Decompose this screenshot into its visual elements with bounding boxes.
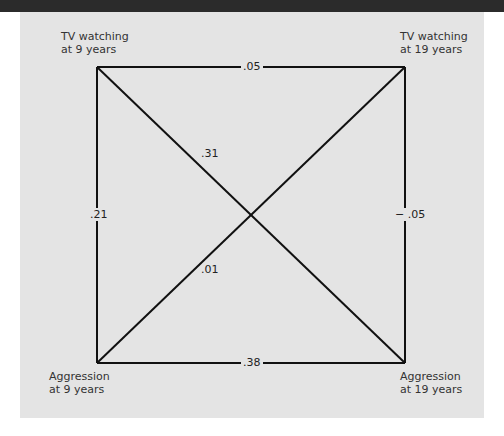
node-ag-19-line2: at 19 years bbox=[400, 383, 462, 396]
edge-label-tv19-ag19: − .05 bbox=[393, 208, 427, 221]
edge-label-ag9-tv19: .01 bbox=[199, 263, 221, 276]
node-tv-9-line2: at 9 years bbox=[61, 43, 129, 56]
node-tv-9: TV watching at 9 years bbox=[61, 30, 129, 56]
edge-label-ag9-ag19: .38 bbox=[241, 356, 263, 369]
edge-label-tv9-tv19: .05 bbox=[241, 60, 263, 73]
node-tv-19-line2: at 19 years bbox=[400, 43, 468, 56]
node-ag-9-line2: at 9 years bbox=[49, 383, 110, 396]
node-tv-19: TV watching at 19 years bbox=[400, 30, 468, 56]
edge-label-tv9-ag9: .21 bbox=[88, 208, 110, 221]
node-ag-9-line1: Aggression bbox=[49, 370, 110, 383]
edge-label-tv9-ag19: .31 bbox=[199, 147, 221, 160]
node-ag-19: Aggression at 19 years bbox=[400, 370, 462, 396]
node-ag-9: Aggression at 9 years bbox=[49, 370, 110, 396]
node-tv-9-line1: TV watching bbox=[61, 30, 129, 43]
node-tv-19-line1: TV watching bbox=[400, 30, 468, 43]
node-ag-19-line1: Aggression bbox=[400, 370, 462, 383]
